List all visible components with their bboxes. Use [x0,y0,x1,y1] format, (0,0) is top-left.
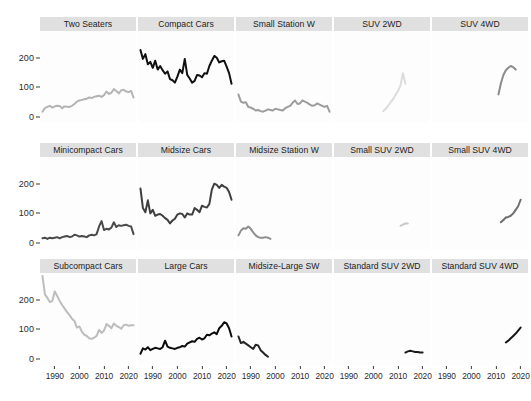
series-svg [334,157,430,249]
data-line [140,184,231,224]
data-line [238,95,329,112]
data-line [400,223,407,225]
data-line [140,322,231,353]
facet-strip: Standard SUV 4WD [432,259,528,273]
data-line [501,200,521,223]
facet-strip: SUV 4WD [432,17,528,31]
series-svg [334,273,430,365]
series-svg [40,31,136,123]
plot-area [40,157,136,249]
facet-strip-label: Subcompact Cars [53,261,122,271]
x-tick: 1990 [340,366,358,381]
x-tick-mark [422,366,423,369]
facet-panel: Small SUV 4WD [432,143,528,249]
x-tick: 2010 [291,366,309,381]
x-tick-label: 1990 [438,371,456,381]
x-axis-col-2: 1990200020102020 [236,366,332,388]
x-tick-mark [177,366,178,369]
facet-strip: Midsize Cars [138,143,234,157]
x-tick: 2000 [70,366,88,381]
plot-area [432,273,528,365]
x-tick: 1990 [46,366,64,381]
facet-strip: Standard SUV 2WD [334,259,430,273]
x-tick-label: 2000 [70,371,88,381]
faceted-line-chart: 010020001002000100200Two SeatersCompact … [0,0,531,401]
facet-strip-label: Midsize Cars [161,145,211,155]
x-tick-label: 2010 [95,371,113,381]
x-tick: 2010 [389,366,407,381]
x-axis-col-4: 1990200020102020 [432,366,528,388]
data-line [383,73,405,111]
x-axis-col-3: 1990200020102020 [334,366,430,388]
x-tick: 2000 [462,366,480,381]
facet-panel: Midsize-Large SW [236,259,332,365]
facet-strip: Subcompact Cars [40,259,136,273]
series-svg [138,273,234,365]
facet-strip-label: Two Seaters [64,19,112,29]
facet-strip: Midsize-Large SW [236,259,332,273]
x-tick-label: 2000 [364,371,382,381]
facet-strip-label: SUV 4WD [460,19,500,29]
x-tick-label: 2000 [462,371,480,381]
x-tick-mark [54,366,55,369]
plot-area [236,157,332,249]
y-axis-row-1: 0100200 [0,157,40,249]
x-tick-mark [520,366,521,369]
facet-strip: Midsize Station W [236,143,332,157]
plot-area [432,157,528,249]
x-tick-mark [226,366,227,369]
y-tick-label: 0 [29,238,34,248]
plot-area [138,273,234,365]
facet-panel: Midsize Cars [138,143,234,249]
series-svg [236,157,332,249]
plot-area [138,157,234,249]
plot-area [40,31,136,123]
facet-panel: Standard SUV 2WD [334,259,430,365]
y-tick-label: 0 [29,112,34,122]
facet-panel: Small Station W [236,17,332,123]
series-svg [40,273,136,365]
series-svg [138,31,234,123]
x-tick-label: 2020 [413,371,431,381]
plot-area [334,273,430,365]
facet-panel: Compact Cars [138,17,234,123]
series-svg [432,31,528,123]
x-tick-mark [373,366,374,369]
facet-strip-label: Midsize-Large SW [248,261,319,271]
x-tick: 2010 [487,366,505,381]
facet-strip-label: Midsize Station W [249,145,319,155]
x-tick-label: 1990 [242,371,260,381]
x-tick-label: 1990 [340,371,358,381]
facet-strip: SUV 2WD [334,17,430,31]
data-line [42,276,133,339]
x-axis-col-1: 1990200020102020 [138,366,234,388]
x-tick-label: 2020 [511,371,529,381]
facet-strip-label: SUV 2WD [362,19,402,29]
x-tick: 2010 [193,366,211,381]
facet-strip: Compact Cars [138,17,234,31]
facet-strip: Small SUV 4WD [432,143,528,157]
y-tick-label: 200 [19,295,34,305]
x-tick-label: 2020 [119,371,137,381]
data-line [405,351,422,353]
plot-area [334,157,430,249]
series-svg [138,157,234,249]
y-tick-label: 0 [29,354,34,364]
x-tick-label: 1990 [144,371,162,381]
x-tick: 2020 [413,366,431,381]
plot-area [334,31,430,123]
x-tick-mark [275,366,276,369]
series-svg [236,31,332,123]
x-tick-mark [471,366,472,369]
y-tick-label: 200 [19,179,34,189]
plot-area [236,31,332,123]
facet-strip: Small Station W [236,17,332,31]
x-tick-mark [250,366,251,369]
data-line [238,337,268,357]
x-tick: 2020 [217,366,235,381]
facet-panel: SUV 2WD [334,17,430,123]
x-tick-label: 2010 [291,371,309,381]
facet-strip-label: Small Station W [253,19,315,29]
facet-strip-label: Standard SUV 2WD [343,261,420,271]
data-line [506,328,521,343]
